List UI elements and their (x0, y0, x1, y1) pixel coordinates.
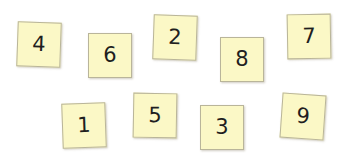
number-card-3[interactable]: 3 (200, 105, 244, 150)
card-number: 9 (296, 106, 311, 128)
number-card-7[interactable]: 7 (287, 14, 332, 60)
card-number: 5 (148, 105, 162, 126)
card-number: 2 (168, 27, 182, 48)
number-card-1[interactable]: 1 (61, 102, 107, 149)
card-number: 8 (235, 49, 248, 70)
number-card-4[interactable]: 4 (16, 21, 62, 68)
card-board: 4 6 2 8 7 1 5 3 9 (0, 0, 338, 160)
number-card-8[interactable]: 8 (220, 37, 264, 82)
number-card-2[interactable]: 2 (152, 14, 198, 61)
number-card-5[interactable]: 5 (133, 93, 178, 139)
card-number: 7 (302, 26, 316, 47)
card-number: 4 (32, 34, 46, 55)
number-card-9[interactable]: 9 (279, 93, 326, 141)
card-number: 6 (103, 45, 116, 66)
number-card-6[interactable]: 6 (88, 33, 132, 78)
card-number: 3 (215, 117, 228, 138)
card-number: 1 (77, 115, 91, 136)
